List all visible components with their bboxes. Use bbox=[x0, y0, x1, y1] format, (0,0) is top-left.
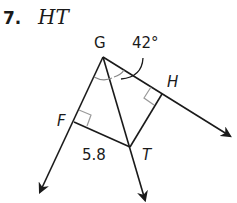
right-angle-mark-h bbox=[144, 87, 154, 105]
angle-42-arc bbox=[121, 58, 143, 79]
right-angle-mark-f bbox=[79, 110, 91, 126]
label-h: H bbox=[167, 73, 178, 91]
geometry-diagram: G 42° H F 5.8 T bbox=[0, 0, 237, 203]
label-g: G bbox=[94, 34, 106, 52]
label-t: T bbox=[142, 146, 153, 164]
segment-ft bbox=[74, 122, 130, 147]
angle-arc-tgh bbox=[114, 70, 124, 77]
ray-gf bbox=[40, 57, 103, 192]
label-f: F bbox=[57, 112, 66, 130]
segment-ht bbox=[130, 94, 162, 147]
label-angle: 42° bbox=[132, 34, 159, 52]
label-length: 5.8 bbox=[82, 146, 106, 164]
